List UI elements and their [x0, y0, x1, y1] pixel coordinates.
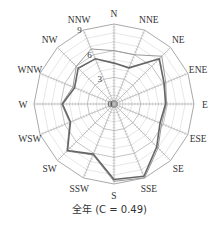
direction-label-wsw: WSW: [18, 134, 41, 144]
direction-label-ene: ENE: [189, 65, 208, 75]
direction-label-nnw: NNW: [68, 15, 91, 25]
direction-label-ssw: SSW: [69, 184, 89, 194]
direction-label-ne: NE: [172, 35, 185, 45]
direction-label-nw: NW: [42, 35, 58, 45]
direction-label-sse: SSE: [141, 184, 158, 194]
chart-grid: [34, 24, 194, 184]
direction-label-ese: ESE: [190, 134, 207, 144]
scale-label-9: 9: [77, 25, 82, 35]
wind-rose-chart: NNNENEENEEESESESSESSSWSWWSWWWNWNWNNW0369: [0, 0, 219, 226]
scale-label-3: 3: [98, 74, 103, 84]
direction-label-nne: NNE: [139, 15, 159, 25]
direction-label-e: E: [202, 100, 208, 110]
direction-label-sw: SW: [43, 164, 57, 174]
direction-label-n: N: [111, 9, 118, 19]
direction-label-w: W: [19, 100, 28, 110]
direction-label-s: S: [111, 191, 116, 201]
direction-label-wnw: WNW: [18, 65, 43, 75]
scale-label-6: 6: [87, 50, 92, 60]
direction-label-se: SE: [173, 164, 184, 174]
chart-caption: 全年 (C = 0.49): [0, 201, 219, 216]
scale-label-0: 0: [108, 99, 113, 109]
